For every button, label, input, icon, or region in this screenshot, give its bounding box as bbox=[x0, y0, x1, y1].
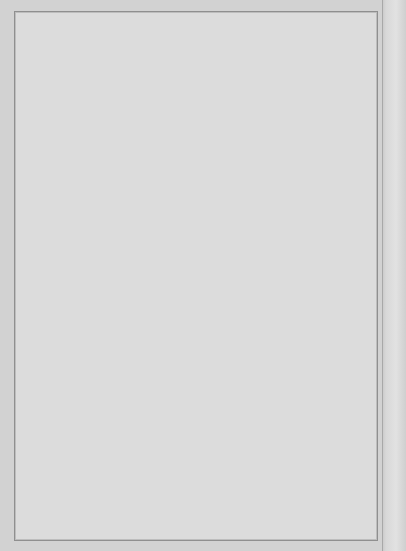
chart-bottom-canvas bbox=[1, 276, 391, 551]
figure-page bbox=[0, 0, 406, 551]
chart-top-canvas bbox=[1, 1, 391, 281]
figure-frame bbox=[14, 11, 378, 541]
page-edge-strip bbox=[382, 0, 406, 551]
chart-panel-bottom bbox=[1, 276, 391, 551]
chart-panel-top bbox=[1, 1, 391, 281]
